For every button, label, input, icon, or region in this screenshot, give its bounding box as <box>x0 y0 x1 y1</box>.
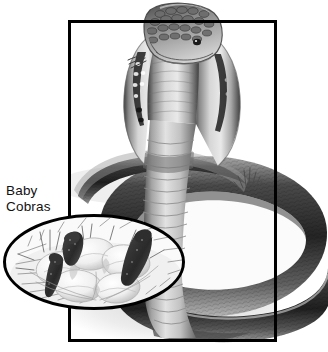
cobra-eye <box>193 39 201 45</box>
inset-label-line2: Cobras <box>6 199 68 215</box>
inset-label: Baby Cobras <box>6 183 68 214</box>
illustration-canvas <box>0 0 328 352</box>
inset-label-line1: Baby <box>6 183 68 199</box>
cobra-illustration <box>0 0 328 352</box>
